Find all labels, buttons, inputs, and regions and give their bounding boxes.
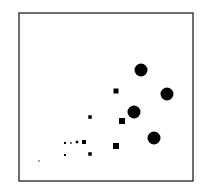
square-marker [82,140,86,144]
square-marker [88,115,92,119]
square-marker [119,118,125,124]
square-marker [70,142,72,144]
circle-marker [135,64,148,77]
square-series [38,89,125,162]
square-marker [88,152,92,156]
square-marker [64,142,66,144]
circle-series [128,64,174,145]
circle-marker [128,106,141,119]
square-marker [114,89,119,94]
circle-marker [148,132,161,145]
square-marker [76,141,79,144]
square-marker [38,160,39,161]
square-marker [113,143,119,149]
circle-marker [161,88,174,101]
scatter-chart [0,0,202,196]
square-marker [64,154,66,156]
